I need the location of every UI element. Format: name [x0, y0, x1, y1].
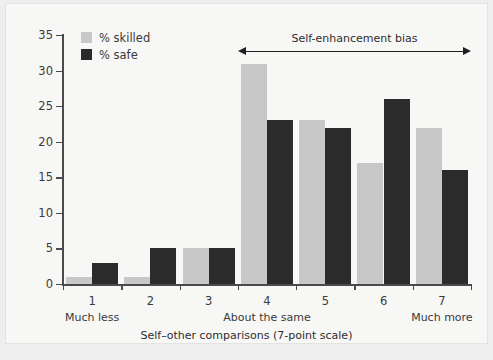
- x-axis-title: Self–other comparisons (7-point scale): [6, 329, 487, 342]
- bar-1-safe: [92, 263, 118, 284]
- y-tick-25: [56, 106, 62, 107]
- y-tick-label-35: 35: [9, 28, 53, 42]
- x-category-label-1: 1: [88, 294, 95, 308]
- y-tick-label-25: 25: [9, 99, 53, 113]
- x-category-label-4: 4: [263, 294, 270, 308]
- y-tick-label-15: 15: [9, 170, 53, 184]
- bar-7-safe: [442, 170, 468, 284]
- bar-1-skilled: [66, 277, 92, 284]
- y-tick-5: [56, 248, 62, 249]
- bar-7-skilled: [416, 128, 442, 285]
- bar-4-skilled: [241, 64, 267, 285]
- x-category-label-7: 7: [438, 294, 445, 308]
- y-tick-15: [56, 177, 62, 178]
- figure-background: % skilled % safe Self-enhancement bias 0…: [0, 0, 493, 360]
- x-category-label-2: 2: [147, 294, 154, 308]
- bar-5-safe: [325, 128, 351, 285]
- y-tick-10: [56, 213, 62, 214]
- bar-4-safe: [267, 120, 293, 284]
- y-tick-20: [56, 142, 62, 143]
- x-tick-4: [238, 285, 239, 290]
- bar-2-skilled: [124, 277, 150, 284]
- x-category-label-5: 5: [322, 294, 329, 308]
- bar-3-skilled: [183, 248, 209, 284]
- plot-area: [63, 35, 471, 284]
- y-tick-label-5: 5: [9, 241, 53, 255]
- x-tick-3: [180, 285, 181, 290]
- y-tick-0: [56, 284, 62, 285]
- bar-3-safe: [209, 248, 235, 284]
- x-tick-end: [471, 285, 472, 290]
- x-tick-6: [354, 285, 355, 290]
- x-category-label-6: 6: [380, 294, 387, 308]
- x-tick-1: [63, 285, 64, 290]
- x-tick-2: [121, 285, 122, 290]
- y-tick-35: [56, 35, 62, 36]
- chart-panel: % skilled % safe Self-enhancement bias 0…: [6, 4, 487, 343]
- y-tick-label-0: 0: [9, 277, 53, 291]
- x-tick-7: [413, 285, 414, 290]
- y-tick-label-20: 20: [9, 135, 53, 149]
- bar-5-skilled: [299, 120, 325, 284]
- x-category-sublabel-1: Much less: [65, 311, 119, 324]
- bar-2-safe: [150, 248, 176, 284]
- y-tick-30: [56, 71, 62, 72]
- y-tick-label-30: 30: [9, 64, 53, 78]
- bar-6-skilled: [357, 163, 383, 284]
- x-category-sublabel-7: Much more: [411, 311, 472, 324]
- x-category-label-3: 3: [205, 294, 212, 308]
- bar-6-safe: [384, 99, 410, 284]
- x-category-sublabel-4: About the same: [223, 311, 311, 324]
- y-tick-label-10: 10: [9, 206, 53, 220]
- x-axis-line: [62, 284, 472, 286]
- x-tick-5: [296, 285, 297, 290]
